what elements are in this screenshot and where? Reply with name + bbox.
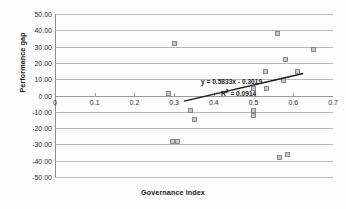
y-axis-tick-label: 20.00	[34, 59, 52, 66]
x-axis-tick-label: 0.2	[130, 99, 140, 106]
gridline	[55, 79, 333, 80]
data-point-marker	[251, 113, 256, 118]
gridline	[55, 177, 333, 178]
gridline	[55, 14, 333, 15]
gridline	[55, 30, 333, 31]
x-axis-tick-label: 0.3	[169, 99, 179, 106]
x-axis-tickmark	[293, 93, 294, 96]
data-point-marker	[166, 91, 171, 96]
y-axis-tick-label: -20.00	[32, 125, 52, 132]
data-point-marker	[311, 47, 316, 52]
y-axis-title: Performance gap	[18, 8, 27, 118]
x-axis-zero-line	[55, 96, 333, 97]
gridline	[55, 128, 333, 129]
x-axis-title: Governance index	[0, 188, 346, 197]
x-axis-tickmark	[214, 93, 215, 96]
x-axis-tick-label: 0.4	[209, 99, 219, 106]
y-axis-tick-label: 30.00	[34, 43, 52, 50]
data-point-marker	[281, 78, 286, 83]
data-point-marker	[192, 117, 197, 122]
x-axis-tick-label: 0.1	[90, 99, 100, 106]
gridline	[55, 161, 333, 162]
data-point-marker	[285, 152, 290, 157]
y-axis-tick-label: -30.00	[32, 141, 52, 148]
data-point-marker	[277, 155, 282, 160]
y-axis-tick-label: 40.00	[34, 27, 52, 34]
data-point-marker	[175, 139, 180, 144]
trendline-equation-label: y = 0.5833x - 0.3019	[201, 78, 262, 85]
y-axis-tick-label: -40.00	[32, 157, 52, 164]
data-point-marker	[188, 108, 193, 113]
x-axis-tickmark	[134, 93, 135, 96]
x-axis-tickmark	[174, 93, 175, 96]
y-axis-tick-label: 0.00	[38, 92, 52, 99]
data-point-marker	[172, 41, 177, 46]
y-axis-line	[55, 14, 56, 177]
y-axis-tick-label: -10.00	[32, 108, 52, 115]
gridline	[55, 144, 333, 145]
x-axis-tick-label: 0.6	[288, 99, 298, 106]
y-axis-tick-label: 10.00	[34, 76, 52, 83]
x-axis-tick-label: 0.5	[249, 99, 259, 106]
rsquared-value: = 0.0914	[229, 90, 257, 97]
x-axis-tick-label: 0.7	[328, 99, 338, 106]
data-point-marker	[295, 69, 300, 74]
data-point-marker	[275, 31, 280, 36]
y-axis-tick-label: 50.00	[34, 11, 52, 18]
x-axis-tickmark	[95, 93, 96, 96]
gridline	[55, 47, 333, 48]
plot-area: 50.0040.0030.0020.0010.000.00-10.00-20.0…	[55, 14, 333, 177]
scatter-chart: Performance gap 50.0040.0030.0020.0010.0…	[0, 0, 346, 209]
data-point-marker	[264, 86, 269, 91]
gridline	[55, 112, 333, 113]
data-point-marker	[263, 69, 268, 74]
gridline	[55, 63, 333, 64]
data-point-marker	[283, 57, 288, 62]
trendline-rsquared-label: R2 = 0.0914	[221, 88, 256, 97]
x-axis-tick-label: 0	[53, 99, 57, 106]
y-axis-tick-label: -50.00	[32, 174, 52, 181]
